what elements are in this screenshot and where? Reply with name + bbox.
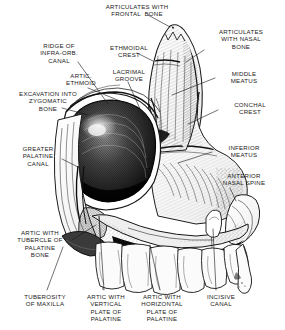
teeth-row <box>96 242 252 295</box>
label-artic-with-vertical-plate-of-palatine: ARTIC WITH VERTICAL PLATE OF PALATINE <box>78 293 134 323</box>
label-greater-palatine-canal: GREATER PALATINE CANAL <box>7 145 69 167</box>
label-anterior-nasal-spine: ANTERIOR NASAL SPINE <box>210 172 278 187</box>
label-tuberosity-of-maxilla: TUBEROSITY OF MAXILLA <box>13 293 77 308</box>
label-artic-with-tubercle-of-palatine-bone: ARTIC WITH TUBERCLE OF PALATINE BONE <box>4 229 76 259</box>
label-inferior-meatus: INFERIOR MEATUS <box>216 144 272 159</box>
label-ethmoidal-crest: ETHMOIDAL CREST <box>99 44 159 59</box>
anatomical-figure: ARTICULATES WITH FRONTAL BONE ARTICULATE… <box>0 0 285 330</box>
label-incisive-canal: INCISIVE CANAL <box>196 293 246 308</box>
label-excavation-into-zygomatic-bone: EXCAVATION INTO ZYGOMATIC BONE <box>4 90 92 112</box>
label-artic-with-horizontal-plate-of-palatine: ARTIC WITH HORIZONTAL PLATE OF PALATINE <box>131 293 193 323</box>
label-artic-ethmoid: ARTIC. ETHMOID <box>55 72 107 87</box>
label-articulates-with-nasal-bone: ARTICULATES WITH NASAL BONE <box>205 28 277 50</box>
label-lacrimal-groove: LACRIMAL GROOVE <box>101 68 157 83</box>
label-middle-meatus: MIDDLE MEATUS <box>219 70 269 85</box>
label-conchal-crest: CONCHAL CREST <box>223 101 277 116</box>
label-articulates-with-frontal-bone: ARTICULATES WITH FRONTAL BONE <box>88 3 186 18</box>
label-ridge-of-infra-orb-canal: RIDGE OF INFRA-ORB. CANAL <box>28 42 90 64</box>
